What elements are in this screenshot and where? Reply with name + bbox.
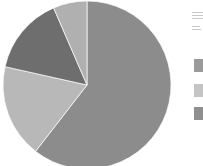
legend-swatch <box>194 59 203 72</box>
legend-item[interactable] <box>194 59 203 72</box>
legend-title-text-line <box>192 15 203 16</box>
legend-title-text-line <box>192 18 203 19</box>
legend-swatch <box>194 107 203 120</box>
pie-chart-screenshot <box>0 0 203 166</box>
legend-title-text-line <box>192 12 203 13</box>
pie-slice-group <box>3 1 171 166</box>
chart-legend <box>180 0 203 166</box>
pie-chart <box>0 0 180 166</box>
legend-swatch <box>194 84 203 97</box>
chart-area <box>0 0 180 166</box>
legend-subtitle-text-line <box>192 26 200 27</box>
legend-item[interactable] <box>194 84 203 97</box>
legend-item[interactable] <box>194 107 203 120</box>
legend-subtitle-text-line <box>192 29 201 30</box>
